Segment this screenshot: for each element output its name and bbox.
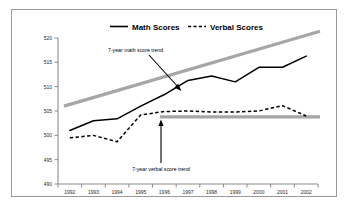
y-tick-label: 490 [44, 181, 53, 187]
x-tick-label: 1994 [112, 189, 123, 195]
annotation-verbal-trend: 7-year verbal score trend [132, 120, 190, 173]
legend-label-verbal: Verbal Scores [210, 23, 263, 32]
math-trend-line [64, 31, 320, 106]
y-axis-tick-labels: 520 515 510 505 500 495 490 [44, 35, 53, 187]
verbal-scores-line [70, 106, 306, 142]
chart-legend: Math Scores Verbal Scores [110, 23, 263, 32]
x-tick-label: 1992 [64, 189, 75, 195]
line-chart: Math Scores Verbal Scores 520 515 [0, 0, 350, 215]
annotation-math-trend-label: 7-year math score trend [108, 47, 163, 53]
y-tick-label: 515 [44, 59, 53, 65]
series-verbal-scores [70, 106, 306, 142]
x-tick-label: 1993 [88, 189, 99, 195]
y-tick-label: 500 [44, 132, 53, 138]
y-tick-label: 520 [44, 35, 53, 41]
trend-lines [64, 31, 320, 117]
x-tick-label: 2002 [301, 189, 312, 195]
annotation-verbal-trend-label: 7-year verbal score trend [132, 166, 190, 172]
annotation-verbal-trend-arrowhead [158, 120, 163, 127]
x-tick-label: 2001 [277, 189, 288, 195]
x-tick-label: 2000 [253, 189, 264, 195]
y-tick-label: 505 [44, 108, 53, 114]
x-tick-label: 1995 [135, 189, 146, 195]
legend-label-math: Math Scores [132, 23, 180, 32]
annotation-math-trend-arrow-shaft [149, 55, 179, 88]
annotation-math-trend: 7-year math score trend [108, 47, 182, 91]
x-tick-label: 1999 [230, 189, 241, 195]
x-tick-label: 1996 [159, 189, 170, 195]
x-tick-label: 1997 [182, 189, 193, 195]
y-tick-label: 495 [44, 157, 53, 163]
y-tick-label: 510 [44, 84, 53, 90]
x-axis-tick-labels: 1992 1993 1994 1995 1996 1997 1998 1999 … [64, 189, 312, 195]
x-tick-label: 1998 [206, 189, 217, 195]
chart-figure: Math Scores Verbal Scores 520 515 [0, 0, 350, 215]
